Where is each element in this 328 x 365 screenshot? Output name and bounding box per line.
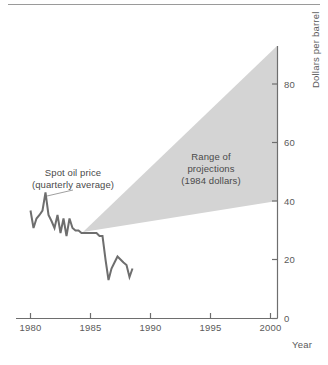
- x-tick-label-1990: 1990: [140, 322, 162, 333]
- spot-oil-price-annotation-line2: (quarterly average): [32, 179, 114, 190]
- spot-oil-price-annotation: Spot oil price (quarterly average): [32, 167, 114, 190]
- y-tick-label-0: 0: [284, 313, 289, 324]
- oil-price-chart: 0 20 40 60 80 Dollars per barrel 1980 19…: [0, 0, 328, 365]
- projection-range-annotation-line2: projections: [187, 163, 234, 174]
- projection-range-annotation-line3: (1984 dollars): [181, 175, 241, 186]
- chart-plot-area: 0 20 40 60 80 Dollars per barrel 1980 19…: [0, 0, 328, 365]
- x-axis-title: Year: [292, 339, 312, 350]
- y-tick-label-40: 40: [284, 196, 295, 207]
- x-tick-label-2000: 2000: [260, 322, 282, 333]
- x-tick-label-1995: 1995: [200, 322, 222, 333]
- x-tick-label-1980: 1980: [20, 322, 42, 333]
- spot-oil-price-annotation-line1: Spot oil price: [45, 167, 101, 178]
- x-tick-label-1985: 1985: [80, 322, 102, 333]
- x-axis-ticks: [31, 313, 271, 319]
- y-tick-label-20: 20: [284, 254, 295, 265]
- y-axis-title: Dollars per barrel: [310, 12, 321, 88]
- projection-range-annotation-line1: Range of: [191, 151, 231, 162]
- projection-range-band: [83, 46, 277, 232]
- spot-oil-price-leader-line: [47, 190, 73, 196]
- y-tick-label-60: 60: [284, 137, 295, 148]
- y-tick-label-80: 80: [284, 79, 295, 90]
